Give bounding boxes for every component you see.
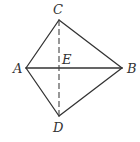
point-label-c: C [53, 2, 63, 17]
point-label-d: D [52, 120, 64, 135]
point-label-a: A [12, 61, 22, 76]
point-label-b: B [126, 61, 137, 76]
segment-bd [59, 68, 122, 116]
segment-ac [26, 20, 59, 68]
point-label-e: E [61, 52, 72, 67]
geometry-diagram: C A E B D [0, 0, 140, 142]
segment-da [26, 68, 59, 116]
segments-group [26, 20, 122, 116]
